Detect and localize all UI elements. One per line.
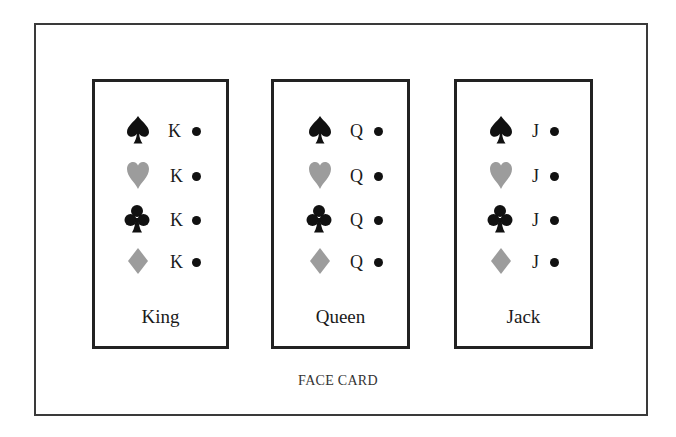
rank-label: J [532, 252, 539, 272]
card-queen: Q Q Q Q Queen [271, 79, 410, 349]
card-name: Queen [274, 306, 407, 328]
dot-icon [192, 216, 201, 225]
dot-icon [550, 258, 559, 267]
dot-icon [192, 127, 201, 136]
dot-icon [550, 216, 559, 225]
diamond-icon [125, 246, 151, 276]
row-heart: Q [274, 160, 407, 196]
dot-icon [550, 127, 559, 136]
rank-label: J [532, 210, 539, 230]
rank-label: K [170, 166, 183, 186]
card-jack: J J J J Jack [454, 79, 593, 349]
club-icon [306, 204, 332, 234]
rank-label: Q [350, 252, 363, 272]
diamond-icon [488, 246, 514, 276]
dot-icon [374, 216, 383, 225]
dot-icon [192, 172, 201, 181]
card-name: Jack [457, 306, 590, 328]
dot-icon [192, 258, 201, 267]
heart-icon [488, 160, 514, 190]
row-spade: J [457, 115, 590, 151]
row-diamond: K [95, 246, 226, 282]
row-diamond: J [457, 246, 590, 282]
row-club: Q [274, 204, 407, 240]
rank-label: K [170, 210, 183, 230]
dot-icon [374, 172, 383, 181]
rank-label: K [168, 121, 181, 141]
figure-caption: FACE CARD [0, 373, 676, 389]
dot-icon [550, 172, 559, 181]
rank-label: K [170, 252, 183, 272]
row-club: J [457, 204, 590, 240]
rank-label: Q [350, 121, 363, 141]
row-spade: K [95, 115, 226, 151]
spade-icon [307, 115, 333, 145]
row-heart: J [457, 160, 590, 196]
row-spade: Q [274, 115, 407, 151]
spade-icon [125, 115, 151, 145]
card-king: K K K K King [92, 79, 229, 349]
row-diamond: Q [274, 246, 407, 282]
rank-label: J [532, 121, 539, 141]
diamond-icon [307, 246, 333, 276]
club-icon [487, 204, 513, 234]
heart-icon [307, 160, 333, 190]
heart-icon [125, 160, 151, 190]
row-club: K [95, 204, 226, 240]
club-icon [124, 204, 150, 234]
spade-icon [488, 115, 514, 145]
dot-icon [374, 258, 383, 267]
rank-label: J [532, 166, 539, 186]
card-name: King [95, 306, 226, 328]
rank-label: Q [350, 210, 363, 230]
row-heart: K [95, 160, 226, 196]
rank-label: Q [350, 166, 363, 186]
dot-icon [374, 127, 383, 136]
